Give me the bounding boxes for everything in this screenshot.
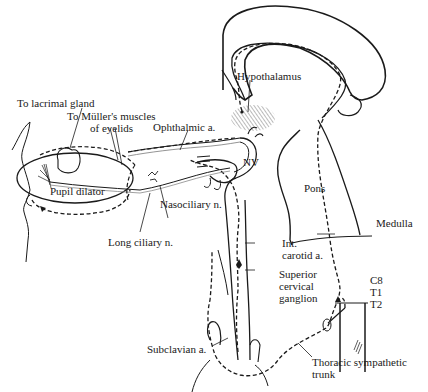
label-medulla: Medulla [376, 217, 413, 229]
medulla-cut [292, 236, 372, 243]
trigeminal-fingers-2 [204, 178, 221, 190]
label-t1: T1 [370, 286, 382, 298]
artery-branch-2 [255, 134, 263, 137]
label-ophthalmic: Ophthalmic a. [153, 121, 215, 133]
label-int-carotid-2: carotid a. [282, 249, 323, 261]
root-ellipse [323, 319, 331, 331]
carotid-left-wall [225, 200, 238, 360]
brain-outline [223, 6, 385, 100]
subclavian-arch [192, 360, 210, 392]
spinal-hatch [354, 340, 362, 354]
carotid-right-wall [245, 200, 250, 360]
label-long-ciliary: Long ciliary n. [108, 236, 173, 248]
brainstem-posterior [318, 120, 360, 235]
label-thoracic-1: Thoracic sympathetic [312, 356, 407, 368]
label-t2: T2 [370, 298, 382, 310]
upward-arrow [335, 296, 341, 302]
label-nv: NV [243, 156, 259, 168]
label-hypothalamus: Hypothalamus [237, 70, 301, 82]
ventral-root [328, 308, 345, 323]
lacrimal-gland [57, 148, 80, 173]
trigeminal-fingers-1 [197, 156, 210, 167]
label-nasociliary: Nasociliary n. [160, 198, 222, 210]
sympathetic-pathway-diagram: Hypothalamus To lacrimal gland To Müller… [0, 0, 428, 392]
label-pupil-dilator: Pupil dilator [50, 185, 105, 197]
pons-outline [278, 130, 300, 245]
subclavian-arch-right [255, 365, 268, 386]
cerebellum-edge [338, 95, 361, 116]
label-scg-3: ganglion [279, 292, 318, 304]
nose-tip [26, 195, 32, 206]
label-subclavian: Subclavian a. [147, 343, 206, 355]
central-pathway-dashed [235, 43, 341, 302]
label-c8: C8 [370, 274, 383, 286]
lower-arrow [40, 206, 46, 212]
label-int-carotid-1: Int. [282, 237, 297, 249]
label-pons: Pons [304, 182, 325, 194]
label-muller-2: of eyelids [90, 122, 133, 134]
trigeminal-ganglion [195, 160, 237, 183]
label-muller-1: To Müller's muscles [67, 110, 156, 122]
nasociliary-nerve-twig [148, 171, 158, 182]
label-lacrimal-gland: To lacrimal gland [17, 97, 94, 109]
external-carotid [218, 250, 228, 295]
label-thoracic-2: trunk [312, 368, 335, 380]
vessel-bump [250, 340, 260, 362]
label-scg-1: Superior [279, 268, 317, 280]
label-scg-2: cervical [279, 280, 314, 292]
